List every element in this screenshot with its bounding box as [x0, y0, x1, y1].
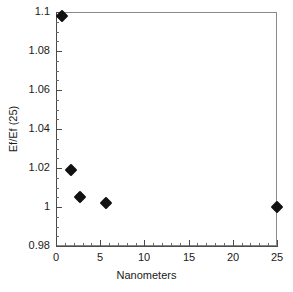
y-axis-tick: [56, 90, 62, 91]
x-axis-tick: [277, 240, 278, 246]
x-axis-minor-tick: [259, 243, 260, 246]
y-axis-minor-tick: [56, 32, 59, 33]
y-axis-tick-label: 1.1: [35, 6, 50, 17]
x-axis-tick-label: 15: [174, 252, 204, 263]
x-axis-tick-label: 25: [262, 252, 292, 263]
x-axis-tick: [144, 240, 145, 246]
y-axis-tick-label: 1.04: [29, 123, 50, 134]
chart-page: 0.9811.021.041.061.081.10510152025 Nanom…: [0, 0, 293, 292]
y-axis-minor-tick: [56, 188, 59, 189]
x-axis-tick: [233, 240, 234, 246]
y-axis-minor-tick: [56, 119, 59, 120]
x-axis-tick-label: 20: [218, 252, 248, 263]
y-axis-tick-label: 1: [44, 201, 50, 212]
y-axis-minor-tick: [56, 178, 59, 179]
y-axis-title: Ef/Ef (25): [7, 69, 19, 189]
x-axis-minor-tick: [224, 243, 225, 246]
y-axis-minor-tick: [56, 22, 59, 23]
y-axis-minor-tick: [56, 61, 59, 62]
y-axis-minor-tick: [56, 149, 59, 150]
y-axis-minor-tick: [56, 80, 59, 81]
y-axis-tick-label: 0.98: [29, 240, 50, 251]
y-axis-tick: [56, 207, 62, 208]
y-axis-minor-tick: [56, 71, 59, 72]
y-axis-tick: [56, 168, 62, 169]
x-axis-minor-tick: [74, 243, 75, 246]
y-axis-minor-tick: [56, 197, 59, 198]
x-axis-minor-tick: [136, 243, 137, 246]
x-axis-minor-tick: [180, 243, 181, 246]
x-axis-minor-tick: [127, 243, 128, 246]
x-axis-minor-tick: [162, 243, 163, 246]
y-axis-minor-tick: [56, 158, 59, 159]
x-axis-minor-tick: [118, 243, 119, 246]
y-axis-minor-tick: [56, 217, 59, 218]
x-axis-tick: [189, 240, 190, 246]
x-axis-minor-tick: [215, 243, 216, 246]
x-axis-minor-tick: [83, 243, 84, 246]
x-axis-minor-tick: [153, 243, 154, 246]
x-axis-line: [56, 246, 278, 247]
x-axis-minor-tick: [109, 243, 110, 246]
x-axis-minor-tick: [197, 243, 198, 246]
y-axis-minor-tick: [56, 110, 59, 111]
x-axis-tick-label: 5: [85, 252, 115, 263]
y-axis-minor-tick: [56, 139, 59, 140]
x-axis-minor-tick: [91, 243, 92, 246]
x-axis-tick: [100, 240, 101, 246]
y-axis-tick-label: 1.08: [29, 45, 50, 56]
y-axis-minor-tick: [56, 227, 59, 228]
y-axis-minor-tick: [56, 41, 59, 42]
x-axis-minor-tick: [242, 243, 243, 246]
y-axis-tick-label: 1.02: [29, 162, 50, 173]
plot-frame: [56, 12, 277, 246]
y-axis-tick: [56, 129, 62, 130]
x-axis-tick-label: 0: [41, 252, 71, 263]
y-axis-tick: [56, 246, 62, 247]
x-axis-title: Nanometers: [0, 269, 293, 281]
y-axis-tick-label: 1.06: [29, 84, 50, 95]
x-axis-minor-tick: [250, 243, 251, 246]
x-axis-minor-tick: [171, 243, 172, 246]
y-axis-minor-tick: [56, 100, 59, 101]
x-axis-tick-label: 10: [129, 252, 159, 263]
x-axis-tick: [56, 240, 57, 246]
x-axis-minor-tick: [268, 243, 269, 246]
y-axis-tick: [56, 51, 62, 52]
y-axis-minor-tick: [56, 236, 59, 237]
x-axis-minor-tick: [206, 243, 207, 246]
x-axis-minor-tick: [65, 243, 66, 246]
